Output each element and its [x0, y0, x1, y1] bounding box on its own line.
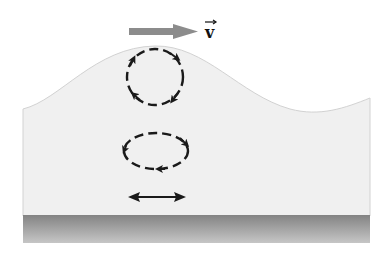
velocity-arrow — [129, 24, 198, 39]
wave-diagram: v — [0, 0, 379, 253]
svg-text:v: v — [204, 23, 215, 42]
water-body — [23, 46, 370, 216]
velocity-label: v — [204, 20, 216, 42]
sea-floor — [23, 215, 370, 243]
